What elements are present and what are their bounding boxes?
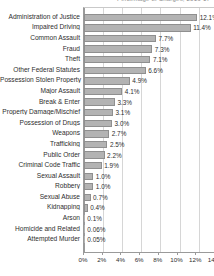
category-label-row: Kidnapping <box>0 202 83 213</box>
category-label-row: Possession of Drugs <box>0 117 83 128</box>
bar <box>84 109 113 116</box>
bar <box>84 141 107 148</box>
bar-value-label: 4.1% <box>125 88 140 95</box>
x-tick <box>83 252 84 255</box>
bar <box>84 151 105 158</box>
bar-value-label: 4.9% <box>132 77 147 84</box>
x-tick-label: 4% <box>116 256 125 263</box>
bar-row: 0.06% <box>84 224 214 235</box>
category-label-row: Break & Enter <box>0 96 83 107</box>
bar-row: 4.9% <box>84 76 214 87</box>
bar <box>84 35 156 42</box>
x-tick-label: 14% <box>208 256 214 263</box>
category-label: Kidnapping <box>0 203 83 210</box>
bar-value-label: 6.6% <box>148 67 163 74</box>
bar <box>84 67 146 74</box>
bar-row: 0.1% <box>84 213 214 224</box>
bar-value-label: 12.1% <box>200 14 214 21</box>
bar-row: 0.7% <box>84 192 214 203</box>
category-label-row: Trafficking <box>0 138 83 149</box>
category-label: Break & Enter <box>0 98 83 105</box>
bar-row: 7.3% <box>84 44 214 55</box>
bar-value-label: 0.4% <box>90 204 105 211</box>
x-tick-label: 10% <box>170 256 182 263</box>
bar <box>84 236 85 243</box>
category-label: Other Federal Statutes <box>0 66 83 73</box>
category-label-row: Impaired Driving <box>0 22 83 33</box>
category-label: Possession Stolen Property <box>0 76 83 83</box>
bar-row: 2.5% <box>84 139 214 150</box>
x-tick-label: 12% <box>189 256 201 263</box>
bar <box>84 120 112 127</box>
category-label-row: Common Assault <box>0 32 83 43</box>
bar-value-label: 2.2% <box>107 152 122 159</box>
category-label: Public Order <box>0 151 83 158</box>
x-tick-label: 0% <box>79 256 88 263</box>
bar-row: 1.0% <box>84 171 214 182</box>
bar-value-label: 0.05% <box>87 236 105 243</box>
category-label-row: Property Damage/Mischief <box>0 106 83 117</box>
bar <box>84 225 85 232</box>
category-label-row: Robbery <box>0 181 83 192</box>
category-label-row: Administration of Justice <box>0 11 83 22</box>
bar <box>84 173 93 180</box>
bar-value-label: 11.4% <box>193 24 211 31</box>
category-label-row: Sexual Assault <box>0 170 83 181</box>
chart-title-clipped: Percentage of Charges, 2016-17 <box>117 0 210 2</box>
bar-row: 3.0% <box>84 118 214 129</box>
bar-row: 7.1% <box>84 54 214 65</box>
bar-row: 7.7% <box>84 33 214 44</box>
category-label-row: Arson <box>0 212 83 223</box>
category-label: Sexual Assault <box>0 172 83 179</box>
category-label: Sexual Abuse <box>0 193 83 200</box>
bar <box>84 130 109 137</box>
bar <box>84 24 191 31</box>
bar-row: 3.3% <box>84 97 214 108</box>
plot-area: 12.1%11.4%7.7%7.3%7.1%6.6%4.9%4.1%3.3%3.… <box>83 7 214 252</box>
category-label: Impaired Driving <box>0 23 83 30</box>
bar-row: 4.1% <box>84 86 214 97</box>
x-tick <box>120 252 121 255</box>
x-axis: 0%2%4%6%8%10%12%14% <box>83 252 214 276</box>
category-label: Weapons <box>0 129 83 136</box>
bar <box>84 204 88 211</box>
x-tick-label: 8% <box>153 256 162 263</box>
bar <box>84 194 91 201</box>
bar-row: 6.6% <box>84 65 214 76</box>
bar-row: 0.05% <box>84 234 214 245</box>
category-label: Possession of Drugs <box>0 119 83 126</box>
category-axis-labels: Administration of JusticeImpaired Drivin… <box>0 7 83 252</box>
x-tick-label: 6% <box>135 256 144 263</box>
bar <box>84 45 152 52</box>
bar <box>84 88 122 95</box>
category-label-row: Weapons <box>0 128 83 139</box>
bar-value-label: 7.7% <box>159 35 174 42</box>
bar-value-label: 3.1% <box>116 109 131 116</box>
bar <box>84 183 93 190</box>
bar-row: 12.1% <box>84 12 214 23</box>
category-label: Fraud <box>0 45 83 52</box>
category-label-row: Sexual Abuse <box>0 191 83 202</box>
x-tick <box>158 252 159 255</box>
category-label: Common Assault <box>0 34 83 41</box>
x-tick-label: 2% <box>97 256 106 263</box>
bar-value-label: 2.5% <box>110 141 125 148</box>
category-label-row: Other Federal Statutes <box>0 64 83 75</box>
category-label: Homicide and Related <box>0 225 83 232</box>
bar <box>84 98 115 105</box>
x-tick <box>195 252 196 255</box>
category-label-row: Criminal Code Traffic <box>0 159 83 170</box>
bar-value-label: 7.1% <box>153 56 168 63</box>
bar <box>84 77 130 84</box>
bar-row: 3.1% <box>84 107 214 118</box>
bar-value-label: 2.7% <box>112 130 127 137</box>
category-label: Robbery <box>0 182 83 189</box>
category-label: Theft <box>0 55 83 62</box>
category-label-row: Major Assault <box>0 85 83 96</box>
category-label: Attempted Murder <box>0 235 83 242</box>
category-label: Major Assault <box>0 87 83 94</box>
bar-value-label: 0.1% <box>87 215 102 222</box>
category-label: Trafficking <box>0 140 83 147</box>
x-tick <box>177 252 178 255</box>
bar <box>84 14 197 21</box>
